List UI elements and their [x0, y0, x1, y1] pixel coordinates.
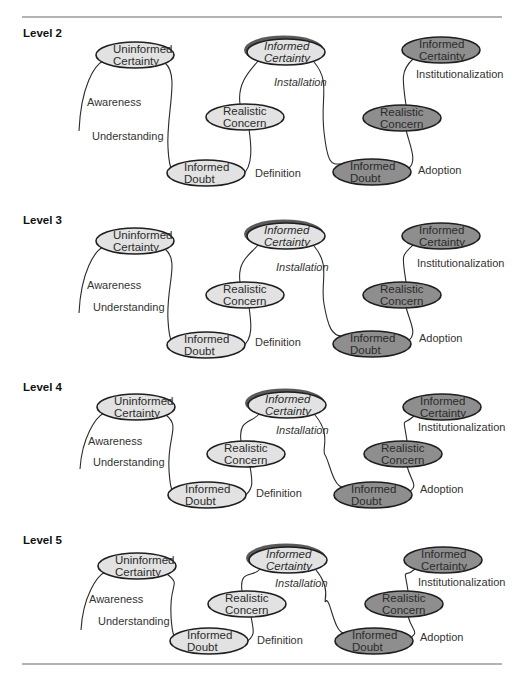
edge-label-installation: Installation [275, 577, 328, 589]
node-label-line: Certainty [264, 236, 311, 248]
edge-label-adoption: Adoption [418, 164, 461, 176]
level-label: Level 4 [23, 381, 63, 393]
node-realistic-concern-light: RealisticConcern [208, 591, 286, 617]
levels-container: Level 2UninformedCertaintyRealisticConce… [23, 27, 505, 654]
node-label-line: Realistic [380, 283, 424, 295]
node-label-line: Uninformed [113, 43, 172, 55]
node-label-line: Informed [185, 483, 230, 495]
edge-institutionalization [404, 416, 414, 441]
edge-label-understanding: Understanding [93, 456, 165, 468]
node-label-line: Realistic [381, 442, 425, 454]
edge-institutionalization [403, 245, 413, 282]
node-label-line: Informed [265, 393, 311, 405]
edge-installation [314, 246, 342, 336]
node-uninformed-certainty: UninformedCertainty [97, 394, 175, 420]
level-label: Level 3 [23, 214, 62, 226]
edge-label-awareness: Awareness [87, 279, 142, 291]
edge-label-institutionalization: Institutionalization [418, 421, 505, 433]
node-uninformed-certainty: UninformedCertainty [96, 42, 174, 68]
node-label-line: Certainty [264, 52, 311, 64]
node-label-line: Certainty [114, 407, 160, 419]
edge-label-understanding: Understanding [92, 130, 164, 142]
node-informed-doubt-dark: InformedDoubt [335, 628, 413, 654]
node-label-line: Certainty [266, 560, 313, 572]
edge-understanding [167, 574, 185, 638]
node-label-line: Certainty [420, 407, 466, 419]
edge-understanding [165, 63, 182, 170]
node-label-line: Informed [266, 548, 312, 560]
node-label-line: Informed [350, 160, 395, 172]
node-label-line: Certainty [113, 241, 159, 253]
node-label-line: Doubt [352, 641, 383, 653]
node-label-line: Certainty [265, 405, 312, 417]
node-label-line: Informed [264, 40, 310, 52]
level-panel: Level 5UninformedCertaintyRealisticConce… [23, 534, 505, 654]
edge-to-informed-certainty [240, 61, 258, 104]
level-panel: Level 4UninformedCertaintyRealisticConce… [23, 381, 505, 508]
edge-label-institutionalization: Institutionalization [417, 257, 504, 269]
level-panel: Level 3UninformedCertaintyRealisticConce… [23, 214, 504, 358]
edge-label-adoption: Adoption [420, 631, 463, 643]
edge-label-understanding: Understanding [93, 301, 165, 313]
node-label-line: Informed [352, 629, 397, 641]
edge-label-installation: Installation [276, 424, 329, 436]
edge-label-definition: Definition [257, 634, 303, 646]
node-label-line: Realistic [223, 283, 267, 295]
edge-label-definition: Definition [256, 487, 302, 499]
node-realistic-concern-dark: RealisticConcern [364, 441, 442, 467]
node-label-line: Certainty [421, 560, 467, 572]
edge-to-informed-certainty [241, 414, 259, 441]
node-informed-certainty-light: InformedCertainty [245, 389, 326, 419]
node-label-line: Doubt [185, 495, 216, 507]
node-label-line: Realistic [380, 106, 424, 118]
node-informed-doubt-light: InformedDoubt [170, 628, 248, 654]
edge-to-informed-certainty [242, 569, 260, 591]
node-label-line: Informed [350, 332, 395, 344]
node-label-line: Doubt [350, 344, 381, 356]
node-informed-certainty-dark: InformedCertainty [403, 394, 481, 420]
level-label: Level 2 [23, 27, 62, 39]
node-label-line: Informed [419, 38, 464, 50]
node-realistic-concern-dark: RealisticConcern [365, 591, 443, 617]
node-label-line: Concern [382, 604, 425, 616]
edge-institutionalization [403, 59, 413, 105]
edge-adoption [406, 130, 413, 169]
node-label-line: Realistic [225, 592, 269, 604]
node-label-line: Informed [420, 395, 465, 407]
node-label-line: Doubt [350, 172, 381, 184]
edge-label-awareness: Awareness [88, 435, 143, 447]
node-label-line: Concern [381, 454, 424, 466]
edge-institutionalization [405, 569, 415, 591]
node-label-line: Concern [224, 454, 267, 466]
node-label-line: Certainty [113, 55, 159, 67]
edge-label-awareness: Awareness [87, 96, 142, 108]
edge-label-installation: Installation [274, 76, 327, 88]
node-informed-doubt-light: InformedDoubt [167, 332, 245, 358]
edge-label-definition: Definition [255, 167, 301, 179]
node-label-line: Concern [380, 295, 423, 307]
node-label-line: Concern [223, 295, 266, 307]
node-realistic-concern-dark: RealisticConcern [363, 105, 441, 131]
node-label-line: Doubt [351, 495, 382, 507]
level-label: Level 5 [23, 534, 63, 546]
node-label-line: Uninformed [113, 229, 172, 241]
node-informed-doubt-dark: InformedDoubt [333, 159, 411, 185]
node-label-line: Informed [184, 333, 229, 345]
node-label-line: Informed [419, 224, 464, 236]
node-label-line: Doubt [187, 641, 218, 653]
node-realistic-concern-light: RealisticConcern [207, 441, 285, 467]
edge-adoption [406, 307, 413, 341]
node-uninformed-certainty: UninformedCertainty [98, 553, 176, 579]
edge-label-institutionalization: Institutionalization [416, 68, 503, 80]
node-label-line: Concern [380, 118, 423, 130]
edge-to-informed-certainty [240, 245, 258, 282]
node-label-line: Realistic [224, 442, 268, 454]
node-label-line: Informed [421, 548, 466, 560]
edge-label-institutionalization: Institutionalization [418, 576, 505, 588]
edge-understanding [166, 415, 183, 492]
level-panel: Level 2UninformedCertaintyRealisticConce… [23, 27, 503, 186]
edge-label-installation: Installation [276, 261, 329, 273]
edge-label-adoption: Adoption [420, 483, 463, 495]
node-informed-doubt-dark: InformedDoubt [333, 331, 411, 357]
node-informed-certainty-dark: InformedCertainty [402, 37, 480, 63]
